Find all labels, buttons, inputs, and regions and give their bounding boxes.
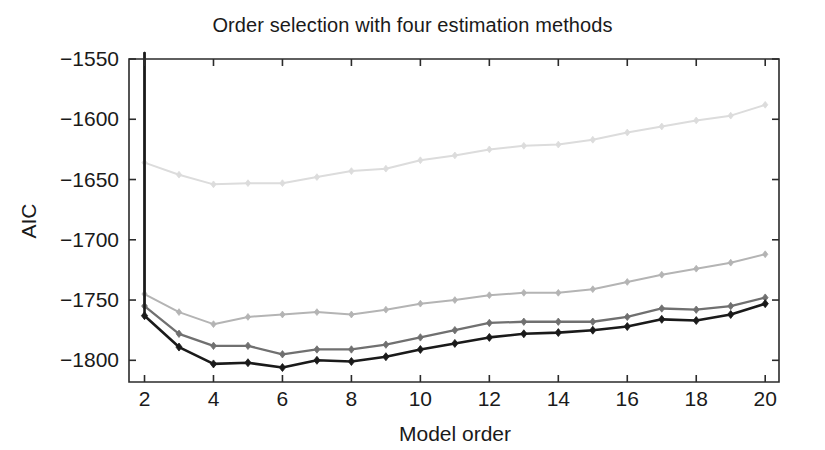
- data-point-marker: [693, 317, 699, 325]
- x-tick-label: 6: [277, 387, 289, 410]
- data-point-marker: [590, 318, 596, 325]
- x-tick-label: 2: [139, 387, 151, 410]
- data-point-marker: [245, 359, 251, 367]
- y-tick-label: −1700: [60, 228, 119, 251]
- data-point-marker: [418, 300, 423, 307]
- data-point-marker: [349, 346, 355, 353]
- series-path: [145, 105, 766, 185]
- data-point-marker: [590, 286, 595, 293]
- data-point-marker: [555, 329, 561, 337]
- data-point-marker: [590, 136, 595, 143]
- data-point-marker: [555, 318, 561, 325]
- data-point-marker: [486, 319, 492, 326]
- data-point-marker: [452, 297, 457, 304]
- y-tick-label: −1800: [60, 348, 119, 371]
- y-tick-label: −1550: [60, 47, 119, 70]
- data-point-marker: [349, 311, 354, 318]
- data-point-marker: [763, 251, 768, 258]
- data-point-marker: [211, 321, 216, 328]
- data-point-marker: [659, 305, 665, 312]
- y-tick-label: −1750: [60, 288, 119, 311]
- data-point-marker: [590, 326, 596, 334]
- series-layer: [141, 53, 768, 372]
- axis-box: [129, 59, 779, 382]
- data-point-marker: [383, 341, 389, 348]
- x-tick-label: 16: [616, 387, 639, 410]
- data-point-marker: [556, 141, 561, 148]
- data-point-marker: [486, 333, 492, 341]
- data-point-marker: [452, 339, 458, 347]
- data-point-marker: [210, 360, 216, 368]
- data-point-marker: [487, 292, 492, 299]
- data-point-marker: [314, 174, 319, 181]
- x-tick-label: 10: [409, 387, 432, 410]
- series-path: [145, 254, 766, 324]
- y-tick-label: −1650: [60, 168, 119, 191]
- data-point-marker: [694, 117, 699, 124]
- data-point-marker: [694, 265, 699, 272]
- data-point-marker: [383, 165, 388, 172]
- data-point-marker: [383, 306, 388, 313]
- data-point-marker: [280, 311, 285, 318]
- data-point-marker: [176, 309, 181, 316]
- x-tick-label: 18: [685, 387, 708, 410]
- data-point-marker: [245, 342, 251, 349]
- chart-figure: Order selection with four estimation met…: [0, 0, 825, 450]
- data-point-marker: [624, 323, 630, 331]
- data-point-marker: [556, 289, 561, 296]
- x-tick-label: 20: [754, 387, 777, 410]
- data-point-marker: [487, 146, 492, 153]
- data-point-marker: [417, 345, 423, 353]
- data-point-marker: [521, 142, 526, 149]
- x-tick-label: 4: [208, 387, 220, 410]
- axes-layer: [129, 59, 779, 382]
- data-point-marker: [314, 346, 320, 353]
- data-point-marker: [383, 353, 389, 361]
- data-point-marker: [279, 364, 285, 372]
- series-method-2-light: [142, 53, 768, 328]
- data-point-marker: [211, 181, 216, 188]
- x-tick-label: 12: [478, 387, 501, 410]
- data-point-marker: [452, 326, 458, 333]
- x-axis-title: Model order: [399, 422, 511, 445]
- data-point-marker: [728, 112, 733, 119]
- data-point-marker: [728, 311, 734, 319]
- data-point-marker: [693, 306, 699, 313]
- data-point-marker: [348, 358, 354, 366]
- data-point-marker: [659, 271, 664, 278]
- data-point-marker: [245, 314, 250, 321]
- data-point-marker: [280, 180, 285, 187]
- series-method-3-mid: [142, 53, 768, 358]
- x-tick-label: 14: [547, 387, 571, 410]
- data-point-marker: [762, 300, 768, 308]
- data-point-marker: [659, 315, 665, 323]
- y-axis-title: AIC: [17, 203, 40, 238]
- data-point-marker: [521, 330, 527, 338]
- series-method-4-dark: [141, 53, 768, 372]
- data-point-marker: [452, 152, 457, 159]
- series-path: [145, 304, 766, 368]
- data-point-marker: [728, 302, 734, 309]
- series-method-1-lightest: [142, 53, 768, 188]
- tick-labels-layer: 2468101214161820−1550−1600−1650−1700−175…: [60, 47, 777, 410]
- data-point-marker: [521, 289, 526, 296]
- data-point-marker: [245, 180, 250, 187]
- data-point-marker: [418, 157, 423, 164]
- data-point-marker: [280, 351, 286, 358]
- data-point-marker: [625, 279, 630, 286]
- data-point-marker: [728, 259, 733, 266]
- data-point-marker: [314, 356, 320, 364]
- data-point-marker: [211, 342, 217, 349]
- plot-area-svg: 2468101214161820−1550−1600−1650−1700−175…: [0, 0, 825, 450]
- data-point-marker: [314, 309, 319, 316]
- data-point-marker: [417, 334, 423, 341]
- data-point-marker: [659, 123, 664, 130]
- y-tick-label: −1600: [60, 107, 119, 130]
- data-point-marker: [625, 129, 630, 136]
- data-point-marker: [176, 171, 181, 178]
- data-point-marker: [521, 318, 527, 325]
- data-point-marker: [763, 101, 768, 108]
- x-tick-label: 8: [346, 387, 358, 410]
- data-point-marker: [349, 168, 354, 175]
- data-point-marker: [624, 313, 630, 320]
